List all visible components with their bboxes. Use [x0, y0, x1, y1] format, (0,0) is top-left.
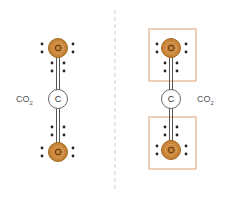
electron: [185, 43, 188, 46]
electron: [72, 51, 75, 54]
electron: [176, 126, 179, 129]
electron: [185, 145, 188, 148]
electron: [176, 62, 179, 65]
electron: [51, 62, 54, 65]
electron: [185, 153, 188, 156]
electron: [72, 43, 75, 46]
electron: [41, 155, 44, 158]
electron: [41, 147, 44, 150]
co2-diagram: O C O CO2: [0, 0, 230, 197]
electron: [41, 43, 44, 46]
electron: [164, 126, 167, 129]
electron: [72, 155, 75, 158]
oxygen-symbol-bottom: O: [54, 147, 61, 157]
electron: [63, 134, 66, 137]
electron: [51, 134, 54, 137]
co2-label-right: CO2: [197, 94, 215, 106]
carbon-symbol: C: [55, 94, 62, 104]
oxygen-symbol-bottom: O: [167, 145, 174, 155]
electron: [156, 51, 159, 54]
electron: [51, 126, 54, 129]
co2-label-left: CO2: [16, 94, 34, 106]
electron: [72, 147, 75, 150]
electron: [63, 62, 66, 65]
electron: [156, 153, 159, 156]
carbon-symbol: C: [168, 94, 175, 104]
electron: [63, 126, 66, 129]
electron: [63, 70, 66, 73]
left-molecule: O C O CO2: [16, 39, 74, 162]
electron: [164, 70, 167, 73]
electron: [164, 62, 167, 65]
electron: [51, 70, 54, 73]
electron: [176, 134, 179, 137]
oxygen-symbol-top: O: [54, 43, 61, 53]
electron: [41, 51, 44, 54]
electron: [185, 51, 188, 54]
electron: [156, 43, 159, 46]
electron: [176, 70, 179, 73]
oxygen-symbol-top: O: [167, 43, 174, 53]
electron: [164, 134, 167, 137]
right-molecule: O C O CO2: [149, 29, 215, 169]
electron: [156, 145, 159, 148]
